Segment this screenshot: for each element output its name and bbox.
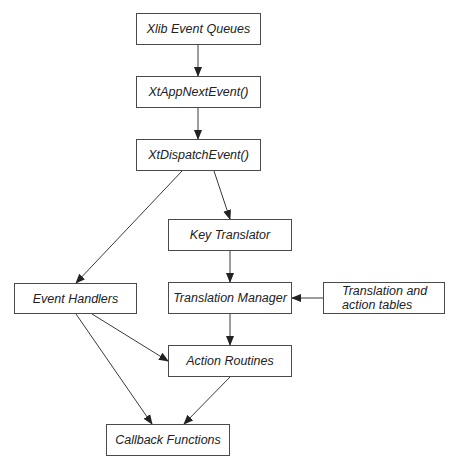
edge-dispatch-to-key [214, 171, 230, 219]
node-xtappnextevent: XtAppNextEvent() [136, 76, 261, 108]
node-translation-manager: Translation Manager [168, 282, 292, 314]
node-label: Translation and action tables [342, 284, 428, 312]
node-action-routines: Action Routines [168, 345, 292, 377]
node-label: Xlib Event Queues [147, 22, 251, 36]
node-label: Key Translator [190, 228, 270, 242]
diagram-canvas: Xlib Event Queues XtAppNextEvent() XtDis… [0, 0, 460, 469]
edge-actions-to-callbacks [184, 377, 230, 424]
node-label: Action Routines [186, 354, 274, 368]
node-label: Event Handlers [33, 292, 118, 306]
node-key-translator: Key Translator [168, 219, 292, 251]
node-callback-functions: Callback Functions [106, 424, 230, 456]
node-label: XtDispatchEvent() [148, 148, 249, 162]
node-xlib-event-queues: Xlib Event Queues [136, 13, 261, 45]
node-label: Callback Functions [115, 433, 221, 447]
node-xtdispatchevent: XtDispatchEvent() [136, 139, 261, 171]
node-label: Translation Manager [173, 291, 287, 305]
node-label: XtAppNextEvent() [148, 85, 248, 99]
edge-handlers-to-callbacks [76, 314, 152, 424]
edge-dispatch-to-handlers [76, 171, 182, 283]
node-translation-action-tables: Translation and action tables [323, 282, 445, 314]
node-event-handlers: Event Handlers [14, 283, 137, 314]
